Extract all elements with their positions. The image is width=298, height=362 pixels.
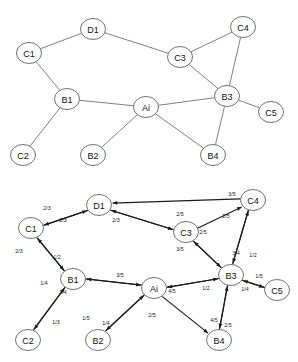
graph-edge: [158, 98, 214, 106]
graph-arc-b3-to-c4[interactable]: 1/2: [233, 211, 257, 264]
graph-node-c3[interactable]: C3: [168, 47, 193, 68]
graph-arc-ai-to-b2[interactable]: 1/5: [82, 295, 144, 331]
graph-arc-c3-to-c4[interactable]: 2/5: [198, 207, 242, 228]
graph-node-b3[interactable]: B3: [219, 265, 244, 286]
graph-node-d1[interactable]: D1: [87, 195, 112, 216]
graph-canvas: C1D1C3C4B3C5B1AiC2B2B4 2/32/32/32/53/52/…: [0, 0, 298, 362]
graph-node-c2[interactable]: C2: [11, 145, 36, 166]
graph-node-c5[interactable]: C5: [265, 280, 290, 301]
graph-edge: [156, 114, 204, 148]
graph-arc-weight: 2/3: [15, 248, 22, 254]
graph-edge: [79, 100, 133, 105]
graph-edge: [189, 64, 218, 88]
graph-node-label: C2: [22, 336, 34, 346]
graph-arc-weight: 1/4: [102, 320, 109, 326]
arrowhead-icon: [111, 210, 116, 214]
graph-node-c2[interactable]: C2: [16, 330, 41, 351]
graph-arc-weight: 1/2: [202, 285, 209, 291]
graph-node-c4[interactable]: C4: [231, 17, 256, 38]
graph-arc-line: [233, 211, 249, 264]
graph-arc-d1-to-c1[interactable]: 2/3: [44, 210, 88, 225]
graph-node-ai[interactable]: Ai: [134, 97, 159, 118]
graph-edge: [105, 33, 169, 53]
graph-node-b4[interactable]: B4: [207, 330, 232, 351]
graph-arc-weight: 4/5: [168, 288, 175, 294]
arrowhead-icon: [44, 222, 49, 226]
graph-arc-b1-to-c2[interactable]: 1/4: [34, 280, 65, 329]
lower-graph-layer: 2/32/32/32/53/52/53/41/23/52/52/31/21/41…: [15, 190, 289, 351]
graph-arc-b2-to-ai[interactable]: 1/4: [102, 296, 143, 332]
graph-arc-weight: 3/5: [228, 191, 235, 197]
graph-node-b1[interactable]: B1: [61, 269, 86, 290]
graph-arc-ai-to-b4[interactable]: 2/5: [148, 296, 208, 333]
graph-node-c5[interactable]: C5: [259, 102, 284, 123]
graph-node-c3[interactable]: C3: [174, 222, 199, 243]
graph-arc-c3-to-b3[interactable]: 3/5: [176, 241, 221, 267]
graph-arc-weight: 1/5: [255, 273, 262, 279]
graph-node-label: B2: [92, 336, 103, 346]
graph-arc-weight: 2/5: [222, 213, 229, 219]
graph-edge: [191, 32, 232, 52]
graph-node-label: B1: [61, 95, 72, 105]
graph-node-label: D1: [93, 201, 105, 211]
graph-node-label: B3: [225, 271, 236, 281]
graph-edge: [30, 108, 60, 146]
graph-node-label: C1: [23, 49, 35, 59]
graph-arc-weight: 1/3: [52, 319, 59, 325]
graph-node-b2[interactable]: B2: [81, 145, 106, 166]
graph-arc-b4-to-b3[interactable]: 2/5: [219, 286, 231, 329]
graph-edge: [215, 106, 224, 144]
graph-arc-weight: 2/5: [224, 322, 231, 328]
graph-arc-c4-to-d1[interactable]: 3/5: [113, 191, 241, 205]
graph-arc-b1-to-c1[interactable]: 1/2: [38, 239, 65, 272]
graph-edge: [36, 62, 60, 91]
graph-node-c1[interactable]: C1: [19, 218, 44, 239]
graph-edge: [40, 33, 81, 48]
graph-node-label: B3: [221, 92, 232, 102]
graph-arc-weight: 1/5: [82, 315, 89, 321]
upper-graph-layer: C1D1C3C4B3C5B1AiC2B2B4: [11, 17, 284, 166]
graph-arc-weight: 3/4: [59, 289, 66, 295]
graph-arc-weight: 1/2: [249, 252, 256, 258]
graph-arc-line: [168, 279, 219, 288]
graph-edge: [102, 115, 138, 148]
graph-node-c4[interactable]: C4: [241, 190, 266, 211]
graph-arc-weight: 2/3: [59, 217, 66, 223]
graph-node-c1[interactable]: C1: [17, 43, 42, 64]
graph-arc-weight: 4/5: [210, 317, 217, 323]
graph-edge: [229, 37, 240, 85]
graph-arc-weight: 1/2: [53, 254, 60, 260]
graph-node-d1[interactable]: D1: [81, 19, 106, 40]
graph-figure: C1D1C3C4B3C5B1AiC2B2B4 2/32/32/32/53/52/…: [0, 0, 298, 362]
graph-node-b4[interactable]: B4: [201, 145, 226, 166]
graph-node-label: B2: [87, 151, 98, 161]
arrowhead-icon: [225, 286, 229, 291]
graph-node-label: C3: [180, 228, 192, 238]
graph-node-ai[interactable]: Ai: [142, 278, 167, 299]
graph-arc-line: [111, 210, 173, 229]
graph-node-label: B4: [207, 151, 218, 161]
graph-node-b3[interactable]: B3: [215, 86, 240, 107]
graph-arc-line: [86, 279, 141, 285]
graph-node-label: Ai: [142, 103, 150, 113]
graph-arc-weight: 2/5: [176, 211, 183, 217]
graph-node-label: C2: [17, 151, 29, 161]
arrowhead-icon: [243, 280, 248, 284]
graph-arc-weight: 2/5: [199, 229, 206, 235]
graph-edge: [238, 100, 259, 108]
graph-arc-ai-to-b1[interactable]: 3/5: [87, 272, 142, 285]
graph-arc-weight: 3/5: [176, 246, 183, 252]
graph-arc-line: [105, 296, 143, 332]
graph-arc-line: [113, 199, 241, 203]
graph-node-label: C4: [247, 196, 259, 206]
graph-node-label: C5: [265, 108, 277, 118]
graph-arc-weight: 2/5: [148, 312, 155, 318]
graph-arc-weight: 3/5: [116, 272, 123, 278]
graph-node-label: B1: [67, 275, 78, 285]
graph-arc-c3-to-d1[interactable]: 2/5: [111, 210, 183, 230]
graph-node-label: C5: [271, 286, 283, 296]
graph-node-label: C1: [25, 224, 37, 234]
graph-node-b1[interactable]: B1: [55, 89, 80, 110]
graph-node-b2[interactable]: B2: [86, 330, 111, 351]
graph-arc-weight: 1/4: [40, 280, 47, 286]
